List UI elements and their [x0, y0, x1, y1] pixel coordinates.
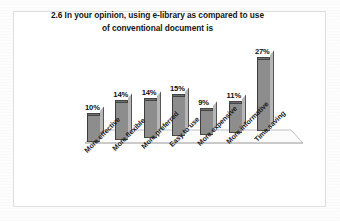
bar-top-face — [115, 100, 128, 103]
scanned-page-background: 2.6 In your opinion, using e-library as … — [0, 0, 340, 221]
bar-front-face — [257, 60, 270, 131]
bar-value-label: 14% — [113, 90, 128, 99]
bar-series: 10%14%14%15%9%11%27% — [13, 11, 326, 207]
bar-value-label: 9% — [198, 98, 209, 107]
bar-value-label: 11% — [227, 91, 241, 100]
bar-side-face — [270, 50, 274, 125]
bar-column — [257, 60, 270, 131]
plot-area: 10%14%14%15%9%11%27% More effectiveMore … — [13, 11, 326, 207]
bar-value-label: 14% — [142, 88, 157, 97]
bar-top-face — [87, 113, 100, 116]
bar-value-label: 15% — [170, 84, 185, 93]
bar-top-face — [144, 98, 157, 101]
bar-top-face — [172, 94, 185, 97]
bar-top-face — [200, 108, 213, 111]
bar-top-face — [257, 57, 270, 60]
bar-value-label: 10% — [85, 103, 100, 112]
bar-top-face — [229, 101, 242, 104]
bar-value-label: 27% — [255, 47, 270, 56]
